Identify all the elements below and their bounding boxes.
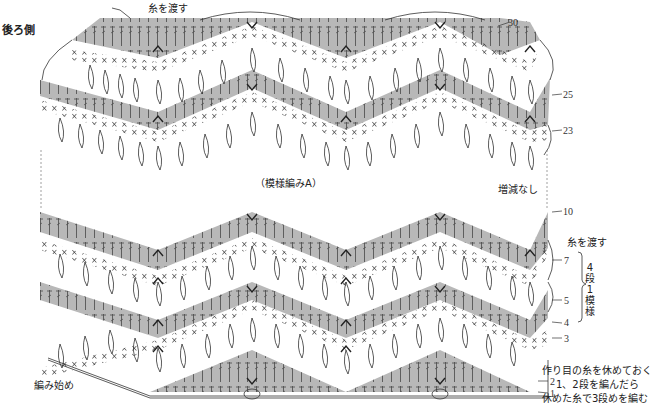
no-change-label: 増減なし	[498, 184, 538, 196]
lower-block	[40, 212, 553, 399]
row-number-5: 5	[564, 295, 569, 306]
repeat-label: 4 段 1 模 様	[584, 262, 596, 317]
pass-yarn-label-right: 糸を渡す	[567, 237, 607, 249]
row-number-7: 7	[564, 255, 569, 266]
instruction-note-3: 休めた糸で3段めを編む	[542, 392, 648, 406]
upper-block	[40, 8, 612, 170]
row-number-10: 10	[563, 206, 573, 217]
instruction-note-1: 作り目の糸を休めておく	[542, 364, 652, 378]
chart-title: 後ろ側	[2, 25, 35, 37]
row-number-23: 23	[563, 125, 573, 136]
section-label: （模様編みA）	[255, 178, 322, 190]
row-number-4: 4	[564, 317, 569, 328]
instruction-note-2: 1、2段を編んだら	[556, 378, 639, 392]
pass-yarn-label-top: 糸を渡す	[148, 3, 188, 15]
row-number-3: 3	[564, 333, 569, 344]
row-number-30: 30	[508, 17, 518, 28]
row-number-25: 25	[563, 89, 573, 100]
start-label: 編み始め	[34, 380, 74, 392]
